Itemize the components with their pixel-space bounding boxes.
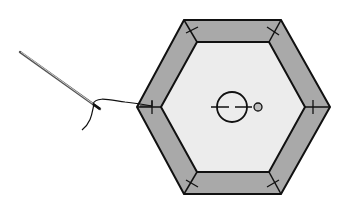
- hexagon-diagram: [0, 0, 348, 203]
- needle-highlight: [21, 52, 99, 108]
- thread-tail: [82, 104, 94, 130]
- diagram-canvas: [0, 0, 348, 203]
- small-circle: [254, 103, 262, 111]
